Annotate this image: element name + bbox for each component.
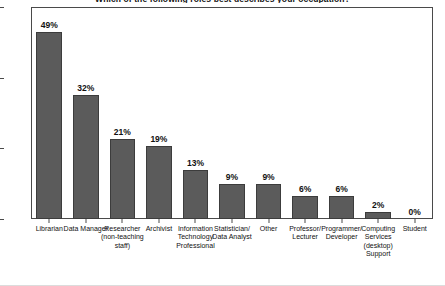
y-axis-tick-mark [0,219,4,220]
y-axis-tick-mark [0,148,4,149]
x-axis-tick-mark [231,219,232,223]
bar-slot: 21% [110,7,136,219]
bar-slot: 9% [256,7,282,219]
bar-slot: 2% [365,7,391,219]
x-axis-tick-mark [195,219,196,223]
x-axis-tick-mark [158,219,159,223]
bar [73,95,99,219]
bar-value-label: 6% [323,184,361,194]
bar [329,196,355,219]
bar-value-label: 49% [30,20,68,30]
y-axis-tick-mark [0,78,4,79]
bar-value-label: 9% [213,172,251,182]
bar-value-label: 0% [396,207,434,217]
x-axis-tick-mark [341,219,342,223]
bar [110,139,136,219]
y-axis: 0102030 [0,0,31,226]
bar [292,196,318,219]
bar-value-label: 2% [359,200,397,210]
chart-title: Which of the following roles best descri… [0,0,445,3]
bar-value-label: 6% [286,184,324,194]
bar-value-label: 21% [104,127,142,137]
occupation-bar-chart: Which of the following roles best descri… [0,0,445,286]
x-axis-tick-mark [414,219,415,223]
bar [219,184,245,219]
bar-value-label: 13% [177,158,215,168]
x-axis-tick-mark [85,219,86,223]
bar-slot: 0% [402,7,428,219]
x-axis-tick-mark [268,219,269,223]
x-axis-tick-mark [49,219,50,223]
x-axis: LibrarianData ManagerResearcher (non-tea… [31,219,433,286]
bar-slot: 13% [183,7,209,219]
bar [183,170,209,219]
bar-slot: 49% [36,7,62,219]
bar [256,184,282,219]
x-axis-tick-mark [378,219,379,223]
bar [365,212,391,219]
bar-slot: 6% [292,7,318,219]
x-axis-tick-mark [122,219,123,223]
x-axis-tick-mark [305,219,306,223]
bar-slot: 9% [219,7,245,219]
bar [146,146,172,219]
bar [36,32,62,219]
bar-slot: 6% [329,7,355,219]
bar-slot: 32% [73,7,99,219]
y-axis-tick-mark [0,7,4,8]
bar-slot: 19% [146,7,172,219]
bar-value-label: 19% [140,134,178,144]
bar-value-label: 9% [250,172,288,182]
bar-value-label: 32% [67,83,105,93]
x-axis-tick-label: Student [389,225,440,233]
bars-layer: 49%32%21%19%13%9%9%6%6%2%0% [31,7,433,219]
